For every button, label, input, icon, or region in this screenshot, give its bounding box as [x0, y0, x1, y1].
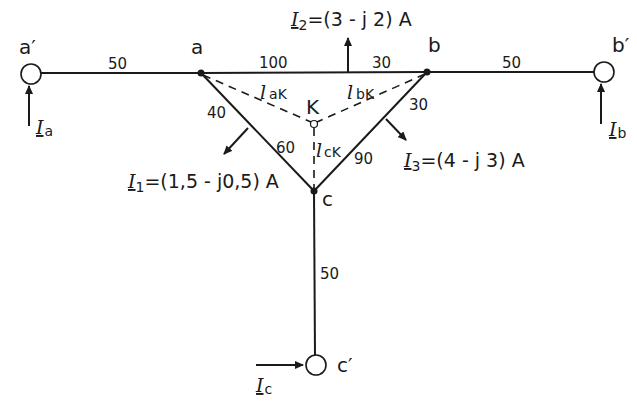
label-I1: I1=(1,5 - j0,5) A — [127, 170, 279, 195]
length-b-b-prime: 50 — [502, 54, 521, 72]
length-a-prime-a: 50 — [108, 55, 127, 73]
label-Ib: Ib — [608, 118, 627, 141]
label-b-prime: b′ — [612, 33, 630, 57]
label-b: b — [428, 33, 441, 57]
length-I3-c: 90 — [354, 150, 373, 168]
node-K-dot — [311, 121, 318, 128]
label-l-cK: lcK — [316, 139, 342, 161]
line-a-b — [201, 72, 427, 73]
node-a-dot — [198, 70, 205, 77]
label-I3: I3=(4 - j 3) A — [403, 149, 525, 174]
length-c-c-prime: 50 — [320, 265, 339, 283]
label-I2: I2=(3 - j 2) A — [290, 8, 412, 33]
length-I1-c: 60 — [276, 139, 295, 157]
arrow-I3 — [386, 119, 406, 140]
node-c-dot — [311, 188, 318, 195]
source-c-prime — [306, 355, 326, 375]
label-Ic: Ic — [255, 374, 272, 397]
label-Ia: Ia — [35, 116, 53, 139]
line-c-c-prime — [314, 191, 315, 356]
length-b-I3: 30 — [409, 96, 428, 114]
length-a-I2: 100 — [259, 54, 288, 72]
label-c-prime: c′ — [337, 353, 353, 377]
label-a-prime: a′ — [19, 35, 36, 59]
length-I2-b: 30 — [372, 54, 391, 72]
label-a: a — [191, 35, 203, 59]
label-l-aK: laK — [260, 81, 288, 103]
label-l-bK: lbK — [347, 81, 375, 103]
node-b-dot — [424, 69, 431, 76]
label-c: c — [322, 187, 333, 211]
network-diagram: a′ a b b′ c c′ K 50 100 30 50 40 60 30 9… — [0, 0, 637, 416]
label-K: K — [306, 95, 320, 119]
arrow-I1 — [224, 128, 248, 154]
source-b-prime — [594, 62, 614, 82]
length-a-I1: 40 — [207, 104, 226, 122]
source-a-prime — [21, 64, 41, 84]
